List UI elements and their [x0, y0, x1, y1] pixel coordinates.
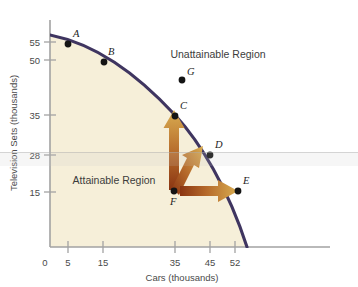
point-label-E: E	[242, 175, 250, 186]
attainable-region-label: Attainable Region	[73, 174, 156, 186]
y-tick-label-50: 50	[29, 55, 40, 66]
point-label-C: C	[180, 100, 188, 111]
point-label-A: A	[72, 28, 80, 39]
x-tick-label-0: 0	[42, 257, 47, 268]
point-label-D: D	[214, 139, 223, 150]
data-point-C[interactable]: C	[172, 100, 188, 119]
data-point-G[interactable]: G	[179, 66, 195, 83]
chart-canvas: 55 50 35 28 15 0 5 15 35 45 52 Cars (tho…	[0, 0, 358, 287]
x-tick-label-45: 45	[205, 257, 216, 268]
point-label-G: G	[187, 66, 195, 77]
data-point-D[interactable]: D	[207, 139, 223, 158]
point-label-F: F	[169, 196, 177, 207]
ppf-chart: 55 50 35 28 15 0 5 15 35 45 52 Cars (tho…	[0, 0, 358, 287]
y-tick-label-35: 35	[29, 110, 40, 121]
x-tick-label-5: 5	[65, 257, 70, 268]
x-tick-label-52: 52	[230, 257, 241, 268]
x-tick-label-15: 15	[98, 257, 109, 268]
point-label-B: B	[108, 46, 115, 57]
unattainable-region-label: Unattainable Region	[170, 48, 265, 60]
x-axis-title: Cars (thousands)	[146, 272, 219, 283]
data-point-E[interactable]: E	[235, 175, 250, 194]
y-tick-label-28: 28	[29, 150, 40, 161]
y-tick-label-15: 15	[29, 187, 40, 198]
x-tick-label-35: 35	[170, 257, 181, 268]
y-tick-label-55: 55	[29, 37, 40, 48]
y-axis-title: Television Sets (thousands)	[8, 75, 19, 191]
